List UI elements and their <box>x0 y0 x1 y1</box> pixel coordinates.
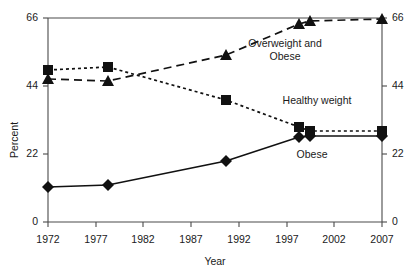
obese-point-1999 <box>293 131 305 143</box>
ytick-right-1: 44 <box>392 79 404 91</box>
healthy-weight-point-1991 <box>221 95 231 105</box>
ytick-right-2: 22 <box>392 147 404 159</box>
annotation-obese: Obese <box>297 148 328 160</box>
overweight-and-obese-point-1991 <box>220 49 232 60</box>
obese-line <box>48 136 382 187</box>
xtick-2007: 2007 <box>370 233 394 245</box>
annotation-overweight-and-obese: Overweight and Obese <box>248 37 322 62</box>
annotation-healthy-weight: Healthy weight <box>283 94 352 106</box>
ytick-left-1: 44 <box>26 79 38 91</box>
overweight-and-obese-line <box>48 19 382 81</box>
ytick-left-0: 66 <box>26 11 38 23</box>
xtick-1992: 1992 <box>227 233 251 245</box>
xtick-1972: 1972 <box>36 233 60 245</box>
series-obese <box>42 130 388 193</box>
healthy-weight-point-1999 <box>294 122 304 132</box>
healthy-weight-point-1977 <box>103 62 113 72</box>
annotation-overweight-and-obese-line2: Obese <box>270 50 301 62</box>
xtick-1977: 1977 <box>84 233 108 245</box>
axis-bottom <box>48 222 382 227</box>
y-axis-title: Percent <box>8 122 20 158</box>
obese-point-1977 <box>102 179 114 191</box>
xtick-1987: 1987 <box>179 233 203 245</box>
ytick-left-3: 0 <box>32 215 38 227</box>
series-overweight-and-obese <box>42 13 388 86</box>
axis-right <box>382 18 387 222</box>
chart-figure: 66 44 22 0 66 44 22 0 1972 1977 1982 198… <box>0 0 414 280</box>
chart-canvas: 66 44 22 0 66 44 22 0 1972 1977 1982 198… <box>0 0 414 280</box>
annotation-overweight-and-obese-line1: Overweight and <box>248 37 322 49</box>
obese-point-1991 <box>220 155 232 167</box>
xtick-2002: 2002 <box>322 233 346 245</box>
x-axis-title: Year <box>204 255 226 267</box>
ytick-right-0: 66 <box>392 11 404 23</box>
ytick-right-3: 0 <box>392 215 398 227</box>
obese-point-1972 <box>42 181 54 193</box>
ytick-left-2: 22 <box>26 147 38 159</box>
xtick-1997: 1997 <box>275 233 299 245</box>
xtick-1982: 1982 <box>131 233 155 245</box>
